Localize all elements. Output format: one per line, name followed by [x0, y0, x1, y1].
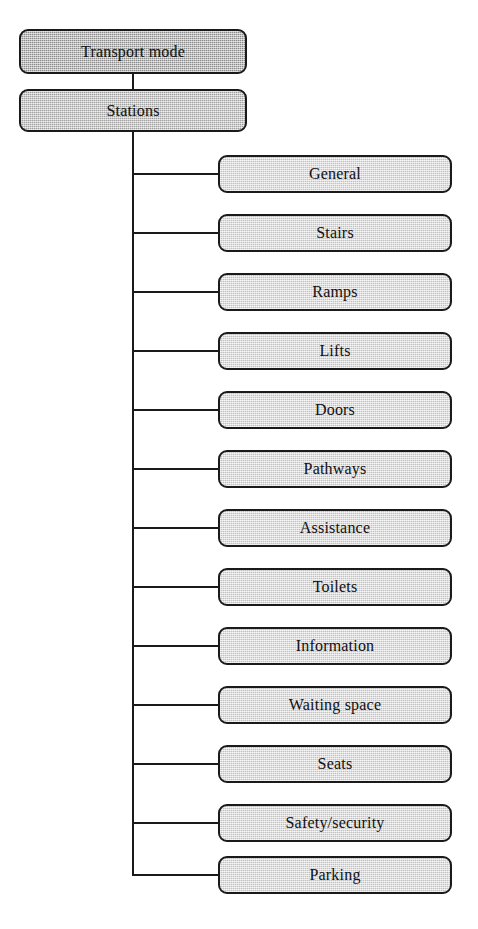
node-seats[interactable]: Seats [218, 745, 452, 783]
node-seats-label: Seats [318, 756, 353, 772]
node-stations[interactable]: Stations [19, 89, 247, 132]
node-lifts-label: Lifts [319, 343, 350, 359]
node-waiting-space-label: Waiting space [289, 697, 381, 713]
connector-stub-toilets [132, 586, 220, 588]
connector-stub-lifts [132, 350, 220, 352]
connector-stub-assistance [132, 527, 220, 529]
node-safety-security-label: Safety/security [286, 815, 385, 831]
connector-stub-waiting-space [132, 704, 220, 706]
node-stations-label: Stations [106, 103, 159, 119]
node-doors[interactable]: Doors [218, 391, 452, 429]
node-pathways-label: Pathways [304, 461, 367, 477]
node-safety-security[interactable]: Safety/security [218, 804, 452, 842]
node-general-label: General [309, 166, 361, 182]
node-assistance[interactable]: Assistance [218, 509, 452, 547]
node-ramps[interactable]: Ramps [218, 273, 452, 311]
connector-stub-pathways [132, 468, 220, 470]
node-information-label: Information [296, 638, 375, 654]
connector-stub-stairs [132, 232, 220, 234]
node-general[interactable]: General [218, 155, 452, 193]
node-stairs[interactable]: Stairs [218, 214, 452, 252]
connector-stub-information [132, 645, 220, 647]
node-toilets-label: Toilets [313, 579, 358, 595]
connector-stub-ramps [132, 291, 220, 293]
node-doors-label: Doors [315, 402, 355, 418]
node-pathways[interactable]: Pathways [218, 450, 452, 488]
node-ramps-label: Ramps [312, 284, 357, 300]
node-information[interactable]: Information [218, 627, 452, 665]
connector-root-to-stations [132, 74, 134, 89]
node-stairs-label: Stairs [316, 225, 354, 241]
connector-stub-parking [132, 874, 220, 876]
connector-stub-safety-security [132, 822, 220, 824]
node-parking-label: Parking [309, 867, 360, 883]
node-waiting-space[interactable]: Waiting space [218, 686, 452, 724]
transport-mode-hierarchy-diagram: Transport mode Stations General Stairs R… [0, 0, 478, 929]
node-assistance-label: Assistance [300, 520, 370, 536]
connector-stub-seats [132, 763, 220, 765]
connector-stub-doors [132, 409, 220, 411]
node-transport-mode[interactable]: Transport mode [19, 29, 247, 74]
node-lifts[interactable]: Lifts [218, 332, 452, 370]
node-transport-mode-label: Transport mode [81, 44, 185, 60]
node-parking[interactable]: Parking [218, 856, 452, 894]
node-toilets[interactable]: Toilets [218, 568, 452, 606]
connector-stub-general [132, 173, 220, 175]
